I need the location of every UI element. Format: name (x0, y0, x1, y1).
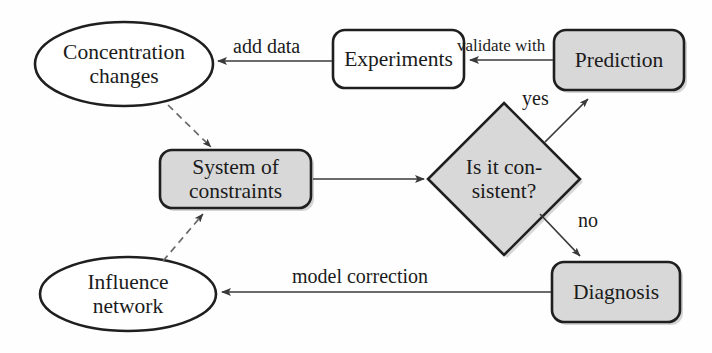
node-shape-concentration-changes[interactable] (35, 22, 213, 106)
node-shape-system-of-constraints[interactable] (160, 150, 311, 208)
flowchart-graphics (0, 0, 712, 353)
edge-influence-to-constraints (163, 214, 203, 261)
edge-label-model-correction: model correction (292, 266, 428, 286)
node-shape-experiments[interactable] (333, 30, 464, 88)
edge-decision-to-diagnosis (540, 214, 580, 256)
edge-label-yes: yes (522, 88, 549, 108)
node-shape-prediction[interactable] (554, 30, 684, 90)
edge-decision-to-prediction (545, 99, 588, 142)
node-shape-influence-network[interactable] (40, 257, 216, 331)
edge-label-add-data: add data (233, 36, 300, 56)
edge-label-no: no (578, 210, 598, 230)
edge-concentration-to-constraints (168, 105, 211, 147)
edge-label-validate-with: validate with (457, 37, 545, 54)
flowchart-canvas: Concentration changes Experiments Predic… (0, 0, 712, 353)
node-shape-diagnosis[interactable] (552, 262, 680, 322)
